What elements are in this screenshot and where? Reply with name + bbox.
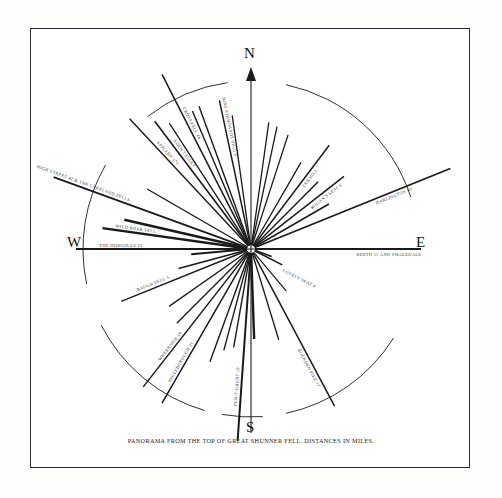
sight-ray-minor bbox=[252, 135, 288, 245]
sight-ray-minor bbox=[254, 204, 328, 247]
ray-group bbox=[54, 74, 451, 440]
sight-ray bbox=[54, 177, 248, 247]
sight-ray bbox=[254, 176, 344, 246]
page-sheet: N S W E CROSS FELL 46APPLEBY 17½NINE STA… bbox=[0, 0, 502, 498]
compass-label-south: S bbox=[246, 419, 255, 436]
ray-label: REETH 11 AND SWALEDALE bbox=[356, 251, 421, 256]
sight-ray-minor bbox=[251, 253, 254, 339]
sight-ray-minor bbox=[252, 122, 269, 245]
horizon-arc-segment bbox=[222, 414, 263, 417]
horizon-arc-segment bbox=[101, 325, 204, 410]
sight-ray-minor bbox=[169, 251, 248, 306]
compass-label-east: E bbox=[416, 234, 426, 251]
sight-ray bbox=[121, 251, 247, 302]
ray-label: THE HOWGILLS 22 bbox=[99, 242, 142, 247]
diagram-frame: N S W E CROSS FELL 46APPLEBY 17½NINE STA… bbox=[30, 28, 470, 468]
compass-label-north: N bbox=[244, 45, 255, 62]
sight-ray bbox=[253, 145, 329, 246]
panorama-compass-diagram bbox=[31, 29, 471, 469]
compass-label-west: W bbox=[67, 234, 82, 251]
north-arrowhead bbox=[246, 67, 256, 81]
diagram-caption: PANORAMA FROM THE TOP OF GREAT SHUNNER F… bbox=[31, 437, 471, 444]
